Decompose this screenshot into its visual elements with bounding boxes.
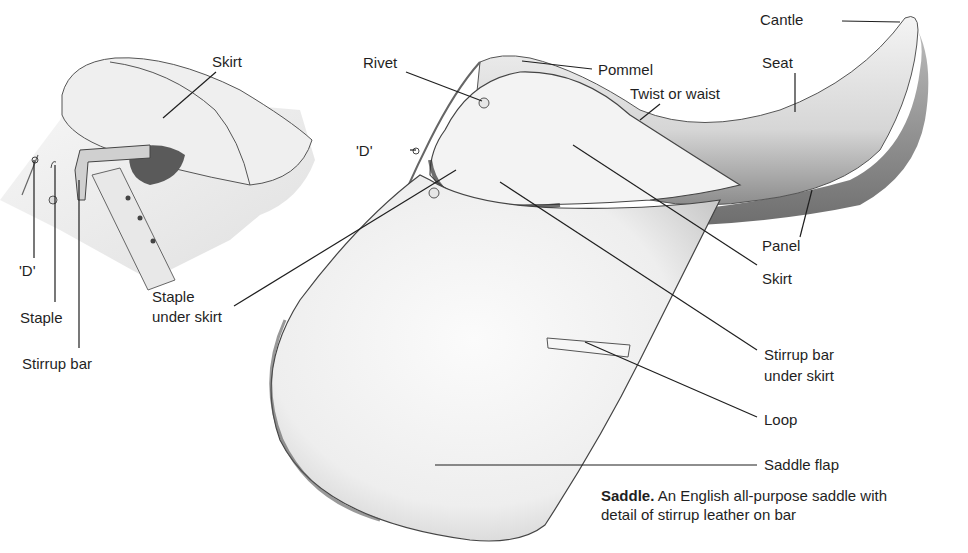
label-stirrup-bar-under-skirt-line1: Stirrup bar <box>764 346 834 363</box>
label-loop: Loop <box>764 411 797 428</box>
detail-inset-drawing <box>0 58 315 290</box>
label-stirrup-bar-under-skirt-line2: under skirt <box>764 367 834 384</box>
figure-caption: Saddle. An English all-purpose saddle wi… <box>601 486 961 524</box>
label-inset-skirt: Skirt <box>212 53 242 70</box>
label-twist-or-waist: Twist or waist <box>630 85 720 102</box>
caption-title: Saddle. <box>601 487 654 504</box>
label-inset-d-ring: 'D' <box>19 262 36 279</box>
label-skirt: Skirt <box>762 270 792 287</box>
label-panel: Panel <box>762 237 800 254</box>
label-staple-under-skirt-line2: under skirt <box>152 308 222 325</box>
label-seat: Seat <box>762 54 793 71</box>
label-inset-staple: Staple <box>20 309 63 326</box>
label-inset-stirrup-bar: Stirrup bar <box>22 355 92 372</box>
label-cantle: Cantle <box>760 11 803 28</box>
caption-text-line2: detail of stirrup leather on bar <box>601 506 796 523</box>
label-staple-under-skirt-line1: Staple <box>152 288 195 305</box>
label-d-ring: 'D' <box>356 142 373 159</box>
label-rivet: Rivet <box>363 54 397 71</box>
label-pommel: Pommel <box>598 61 653 78</box>
caption-text-line1: An English all-purpose saddle with <box>658 487 887 504</box>
label-saddle-flap: Saddle flap <box>764 456 839 473</box>
